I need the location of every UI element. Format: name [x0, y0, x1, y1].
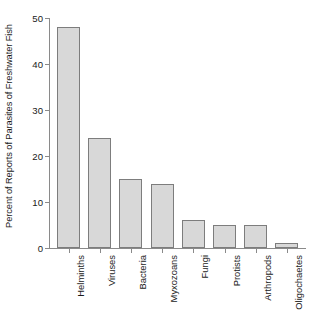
x-axis-tick-mark [162, 249, 163, 253]
x-axis-tick-mark [193, 249, 194, 253]
x-axis-tick-label: Arthropods [261, 255, 275, 332]
bar[interactable] [88, 138, 111, 248]
x-axis-tick-mark [100, 249, 101, 253]
plot-area [50, 14, 306, 248]
y-axis-title-label: Percent of Reports of Parasites of Fresh… [4, 24, 14, 228]
y-axis-tick-label: 10 [32, 196, 43, 209]
x-axis-tick-label: Viruses [105, 255, 119, 332]
bar-chart-figure: Percent of Reports of Parasites of Fresh… [0, 0, 309, 332]
x-axis-tick-label: Bacteria [136, 255, 150, 332]
y-axis-title: Percent of Reports of Parasites of Fresh… [0, 0, 18, 252]
bar[interactable] [182, 220, 205, 248]
y-axis-tick-label: 20 [32, 150, 43, 163]
x-axis-tick-label: Protists [230, 255, 244, 332]
x-axis-tick-mark [69, 249, 70, 253]
x-axis-tick-label: Helminths [74, 255, 88, 332]
bar[interactable] [213, 225, 236, 248]
bars-layer [50, 14, 306, 248]
x-axis-tick-label: Oligochaetes [292, 255, 306, 332]
x-axis-tick-label: Myxozoans [167, 255, 181, 332]
x-axis-tick-label: Fungi [198, 255, 212, 332]
x-axis-labels: HelminthsVirusesBacteriaMyxozoansFungiPr… [50, 249, 306, 332]
y-axis-tick-label: 30 [32, 104, 43, 117]
bar[interactable] [244, 225, 267, 248]
y-axis-tick-label: 50 [32, 12, 43, 25]
y-axis-tick-label: 0 [38, 242, 43, 255]
x-axis-tick-mark [287, 249, 288, 253]
x-axis-tick-mark [131, 249, 132, 253]
bar[interactable] [151, 184, 174, 248]
y-axis-tick-label: 40 [32, 58, 43, 71]
x-axis-tick-mark [225, 249, 226, 253]
x-axis-tick-mark [256, 249, 257, 253]
bar[interactable] [119, 179, 142, 248]
y-axis: 01020304050 [18, 14, 50, 252]
bar[interactable] [57, 27, 80, 248]
